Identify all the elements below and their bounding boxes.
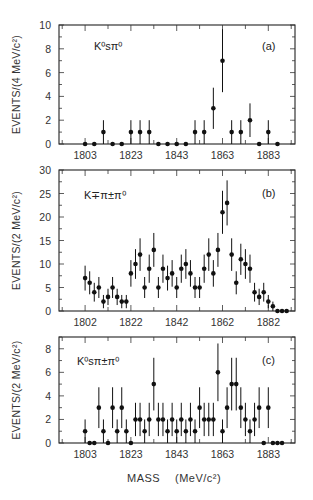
data-point [239,130,244,135]
panel-tag: (b) [262,187,275,199]
data-point [257,142,262,147]
data-point [101,130,106,135]
data-point [97,285,102,290]
data-point [101,299,106,304]
data-point [142,285,147,290]
data-point [138,252,143,257]
data-point [124,299,129,304]
data-point [261,290,266,295]
data-point [275,309,280,314]
data-point [174,142,179,147]
data-point [115,429,120,434]
data-point [275,441,280,446]
data-point [106,295,111,300]
x-axis-unit: (MeV/c²) [175,472,221,484]
reaction-label: K∓π±π⁰ [84,189,127,201]
y-tick-label: 0 [45,437,51,449]
data-point [133,262,138,267]
data-point [165,142,170,147]
data-point [216,370,221,375]
y-tick-label: 10 [39,258,51,270]
data-point [271,441,276,446]
data-point [248,429,253,434]
y-tick-label: 20 [39,211,51,223]
data-point [266,405,271,410]
data-point [193,285,198,290]
x-tick-label: 1803 [73,448,97,460]
data-point [243,417,248,422]
data-point [202,266,207,271]
data-point [142,429,147,434]
y-tick-label: 0 [45,305,51,317]
data-point [83,276,88,281]
y-tick-label: 2 [45,413,51,425]
x-tick-label: 1842 [165,316,189,328]
y-tick-label: 25 [39,188,51,200]
data-point [119,299,124,304]
data-point [197,285,202,290]
data-point [184,262,189,267]
data-point [261,441,266,446]
panel-tag: (a) [262,40,275,52]
data-point [188,271,193,276]
data-point [115,295,120,300]
data-point [110,285,115,290]
data-point [147,417,152,422]
data-point [257,295,262,300]
data-point [280,309,285,314]
x-tick-label: 1862 [211,316,235,328]
x-tick-label: 1823 [119,149,143,161]
data-point [170,271,175,276]
data-point [119,142,124,147]
data-point [284,309,289,314]
data-point [248,266,253,271]
data-point [184,142,189,147]
data-point [234,281,239,286]
data-point [252,290,257,295]
data-point [129,441,134,446]
data-point [202,417,207,422]
data-point [206,252,211,257]
data-point [280,441,285,446]
data-point [257,405,262,410]
x-tick-label: 1863 [211,448,235,460]
data-point [243,262,248,267]
reaction-label: K⁰sπ±π⁰ [77,355,120,367]
data-point [87,441,92,446]
data-point [156,142,161,147]
data-point [138,417,143,422]
data-point [156,285,161,290]
y-tick-label: 6 [45,67,51,79]
data-point [110,142,115,147]
data-point [83,429,88,434]
data-point [239,257,244,262]
y-tick-label: 8 [45,43,51,55]
data-point [106,441,111,446]
data-point [152,382,157,387]
data-point [211,271,216,276]
data-point [220,210,225,215]
x-tick-label: 1843 [165,448,189,460]
y-tick-label: 10 [39,19,51,31]
mass-spectrum-figure: 024681018031823184318631883EVENTS/(4 MeV… [0,0,313,500]
y-tick-label: 8 [45,343,51,355]
data-point [124,429,129,434]
x-tick-label: 1883 [257,448,281,460]
data-point [266,299,271,304]
data-point [252,417,257,422]
data-point [92,290,97,295]
data-point [266,130,271,135]
data-point [161,417,166,422]
data-point [133,417,138,422]
data-point [220,58,225,63]
y-axis-title: EVENTS/(4 MeV/c²) [10,35,22,134]
data-point [174,429,179,434]
panel-a-ks-pi0: 024681018031823184318631883EVENTS/(4 MeV… [10,19,295,161]
data-point [156,417,161,422]
data-point [225,201,230,206]
panel-c-ks-pi-pi0: 0246818031823184318631883EVENTS/(2 MeV/c… [10,337,295,460]
data-point [225,405,230,410]
data-point [179,417,184,422]
data-point [275,142,280,147]
y-tick-label: 30 [39,164,51,176]
